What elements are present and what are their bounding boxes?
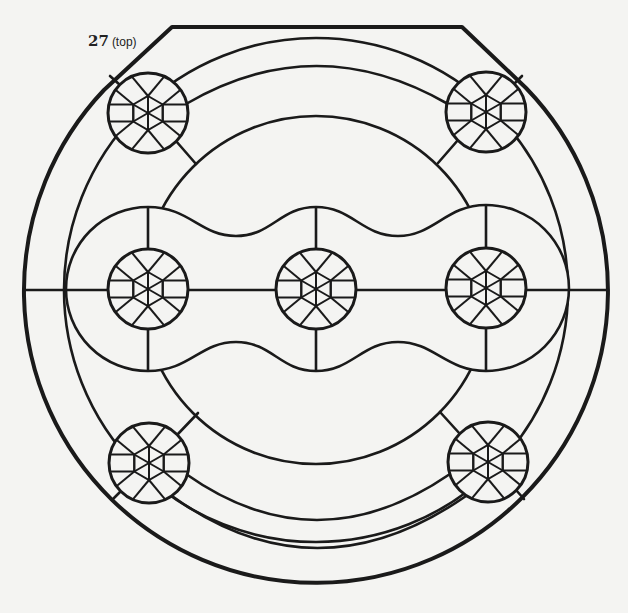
medallion-bottom-right xyxy=(448,422,528,502)
medallion-top-right xyxy=(446,72,526,152)
stained-glass-diagram xyxy=(0,0,628,613)
medallion-top-left xyxy=(108,73,188,153)
medallion-bottom-left xyxy=(109,423,189,503)
connector-bl-outer xyxy=(112,491,121,500)
medallion-middle-right xyxy=(446,248,526,328)
medallion-middle-left xyxy=(108,249,188,329)
bottom-band-arc-outer xyxy=(172,496,466,548)
medallions xyxy=(108,72,528,503)
connector-br xyxy=(440,412,460,434)
connector-bl xyxy=(177,413,198,435)
top-band-arc xyxy=(186,66,448,104)
medallion-center xyxy=(276,249,356,329)
connector-tr xyxy=(438,140,458,163)
bottom-band-arc-inner xyxy=(186,474,450,520)
connector-tl xyxy=(176,141,196,164)
